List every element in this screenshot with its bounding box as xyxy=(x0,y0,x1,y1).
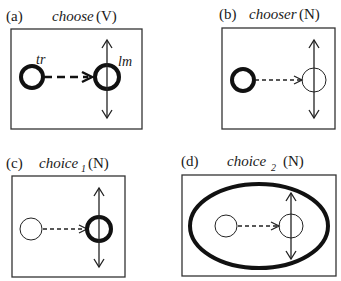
panel-b-pos: (N) xyxy=(299,6,320,23)
panel-d-word: choice xyxy=(227,153,266,169)
panel-c-word: choice xyxy=(39,155,78,171)
panel-d-pos: (N) xyxy=(283,153,304,170)
panel-b-word: chooser xyxy=(249,6,297,22)
panel-b-letter: (b) xyxy=(219,6,237,23)
trajector-circle xyxy=(215,215,237,237)
panel-a: (a) choose (V) tr lm xyxy=(6,8,142,129)
panel-c-frame xyxy=(12,176,125,277)
diagram-canvas: (a) choose (V) tr lm (b) chooser (N) (c)… xyxy=(0,0,341,281)
panel-c-subscript: 1 xyxy=(81,163,86,174)
trajector-circle-bold xyxy=(21,66,43,88)
trajector-label: tr xyxy=(36,52,46,67)
panel-c-letter: (c) xyxy=(6,155,23,172)
panel-b-frame xyxy=(222,28,335,129)
panel-c-pos: (N) xyxy=(88,155,109,172)
panel-d-letter: (d) xyxy=(181,153,199,170)
panel-a-pos: (V) xyxy=(96,8,117,25)
trajector-circle xyxy=(20,218,42,240)
panel-c: (c) choice 1 (N) xyxy=(6,155,125,277)
trajector-circle-bold xyxy=(232,69,254,91)
panel-a-letter: (a) xyxy=(6,8,23,25)
panel-a-frame xyxy=(11,29,142,129)
panel-b: (b) chooser (N) xyxy=(219,6,335,129)
panel-d-subscript: 2 xyxy=(271,162,276,173)
landmark-label: lm xyxy=(118,54,132,69)
panel-d: (d) choice 2 (N) xyxy=(181,153,336,276)
panel-a-word: choose xyxy=(52,8,94,24)
